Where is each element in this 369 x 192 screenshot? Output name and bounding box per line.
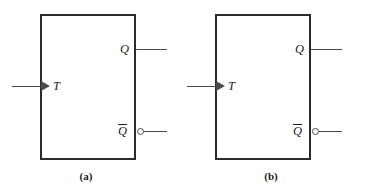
flip-flop-diagram-b: T Q Q (b) — [185, 0, 369, 192]
dynamic-input-triangle-icon-a — [41, 81, 50, 91]
figure-caption-b: (b) — [179, 170, 363, 182]
output-label-qbar-text-a: Q — [118, 124, 127, 138]
output-wire-qbar-a — [144, 131, 167, 132]
output-wire-q-b — [311, 49, 342, 50]
output-label-qbar-a: Q — [118, 124, 127, 138]
inversion-bubble-icon-qbar-a — [137, 128, 144, 135]
output-label-qbar-text-b: Q — [293, 124, 302, 138]
input-label-t-b: T — [228, 80, 235, 93]
output-label-q-b: Q — [295, 43, 304, 56]
output-label-q-a: Q — [120, 43, 129, 56]
inversion-bubble-icon-qbar-b — [312, 128, 319, 135]
flip-flop-diagram-a: T Q Q (a) — [0, 0, 184, 192]
output-wire-qbar-b — [319, 131, 342, 132]
figure-canvas: T Q Q (a) T Q Q (b) — [0, 0, 369, 192]
output-label-qbar-b: Q — [293, 124, 302, 138]
dynamic-input-triangle-icon-b — [216, 81, 225, 91]
figure-caption-a: (a) — [0, 170, 178, 182]
input-label-t-a: T — [53, 80, 60, 93]
input-wire-t-b — [187, 86, 216, 87]
input-wire-t-a — [12, 86, 41, 87]
output-wire-q-a — [136, 49, 167, 50]
